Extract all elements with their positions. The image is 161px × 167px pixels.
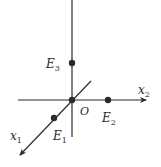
- label-x2: x2: [138, 83, 150, 99]
- label-origin: O: [80, 105, 89, 118]
- coordinate-diagram: E3 O E2 E1 x2 x1: [0, 0, 161, 167]
- label-e3: E3: [45, 57, 60, 73]
- label-e1: E1: [52, 129, 67, 145]
- origin-point: [69, 97, 75, 103]
- point-e3: [69, 60, 75, 66]
- label-e2: E2: [101, 111, 116, 127]
- point-e1: [51, 115, 57, 121]
- point-e2: [105, 97, 111, 103]
- label-x1: x1: [10, 129, 22, 145]
